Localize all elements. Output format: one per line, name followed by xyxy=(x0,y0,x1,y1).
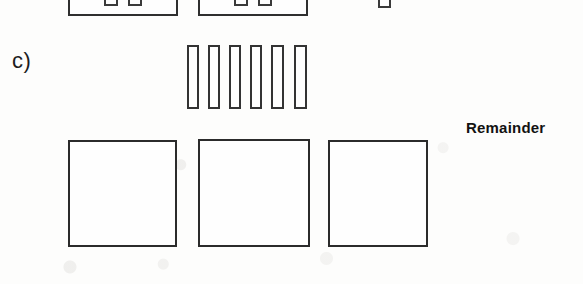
module-right-pin-1 xyxy=(234,0,248,6)
module-box-right xyxy=(198,0,308,16)
module-box-left xyxy=(68,0,178,16)
fin-1 xyxy=(187,45,199,109)
tile-2 xyxy=(198,139,310,247)
module-right-pin-2 xyxy=(258,0,272,6)
fin-4 xyxy=(250,45,262,109)
tile-3 xyxy=(328,140,428,247)
module-left-pin-2 xyxy=(128,0,142,6)
figure-panel-c: c) Remainder xyxy=(0,0,583,284)
fin-5 xyxy=(271,45,284,109)
remainder-label: Remainder xyxy=(466,120,545,135)
fin-6 xyxy=(294,45,307,109)
panel-label-c: c) xyxy=(12,50,31,72)
tile-1 xyxy=(68,140,177,247)
module-left-pin-1 xyxy=(104,0,118,6)
fin-2 xyxy=(208,45,220,109)
fin-3 xyxy=(229,45,241,109)
stray-pin xyxy=(378,0,391,8)
